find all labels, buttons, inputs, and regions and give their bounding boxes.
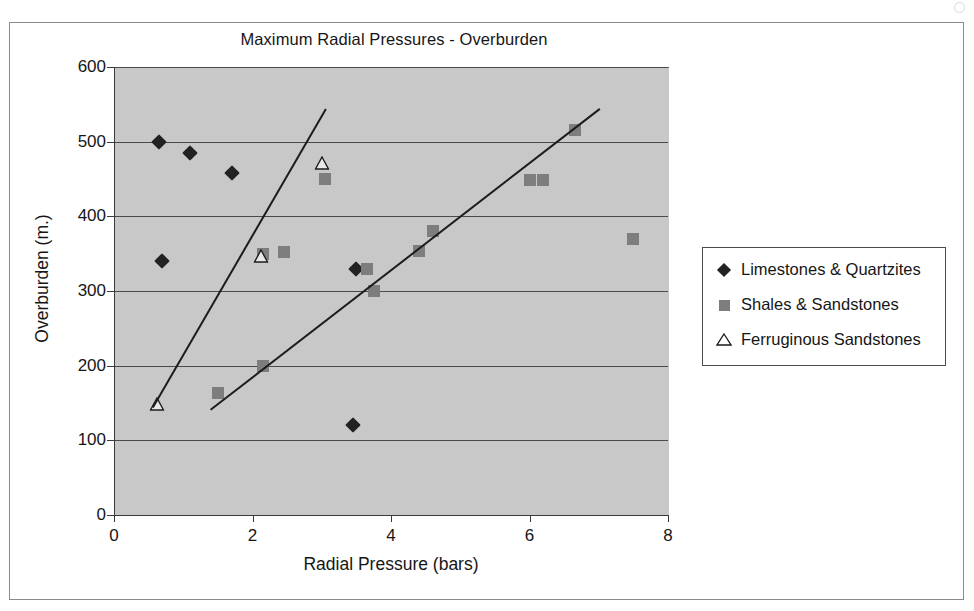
scatter-chart: Maximum Radial Pressures - Overburden 02… <box>10 23 700 601</box>
x-tick-0 <box>114 515 115 522</box>
x-tick-label-6: 6 <box>525 526 534 546</box>
gridline-y-100 <box>114 440 668 441</box>
x-tick-6 <box>530 515 531 522</box>
y-tick-label-0: 0 <box>60 505 106 525</box>
x-tick-4 <box>391 515 392 522</box>
y-tick-label-300: 300 <box>60 281 106 301</box>
gridline-y-500 <box>114 142 668 143</box>
y-tick-label-600: 600 <box>60 57 106 77</box>
scan-speck <box>954 2 965 13</box>
diamond-marker-icon <box>716 262 732 278</box>
legend-label-0: Limestones & Quartzites <box>741 260 921 279</box>
y-tick-400 <box>107 216 115 217</box>
y-tick-label-100: 100 <box>60 430 106 450</box>
data-point-triangle-2-2 <box>314 156 329 170</box>
data-point-square-1-10 <box>537 174 549 186</box>
figure-frame: Maximum Radial Pressures - Overburden 02… <box>9 22 964 600</box>
legend-label-2: Ferruginous Sandstones <box>741 330 921 349</box>
data-point-square-1-0 <box>212 387 224 399</box>
y-axis-title: Overburden (m.) <box>32 179 53 379</box>
gridline-y-300 <box>114 291 668 292</box>
y-tick-label-400: 400 <box>60 206 106 226</box>
x-tick-label-8: 8 <box>663 526 672 546</box>
gridline-y-200 <box>114 366 668 367</box>
data-point-triangle-2-1 <box>253 249 268 263</box>
square-marker-icon <box>716 297 732 313</box>
x-axis-title: Radial Pressure (bars) <box>114 554 668 575</box>
triangle-marker-icon <box>716 332 732 348</box>
x-tick-8 <box>668 515 669 522</box>
y-tick-100 <box>107 440 115 441</box>
legend-label-1: Shales & Sandstones <box>741 295 899 314</box>
data-point-square-1-12 <box>627 233 639 245</box>
x-tick-label-0: 0 <box>109 526 118 546</box>
y-tick-label-200: 200 <box>60 356 106 376</box>
y-tick-0 <box>107 515 115 516</box>
y-tick-500 <box>107 142 115 143</box>
data-point-square-1-5 <box>361 263 373 275</box>
gridline-y-600 <box>114 67 668 68</box>
x-tick-2 <box>253 515 254 522</box>
data-point-square-1-4 <box>319 173 331 185</box>
y-tick-600 <box>107 67 115 68</box>
legend-item-1[interactable]: Shales & Sandstones <box>716 295 899 314</box>
chart-title: Maximum Radial Pressures - Overburden <box>114 30 674 49</box>
chart-legend: Limestones & QuartzitesShales & Sandston… <box>702 247 946 366</box>
gridline-y-400 <box>114 216 668 217</box>
y-tick-label-500: 500 <box>60 132 106 152</box>
data-point-square-1-3 <box>278 246 290 258</box>
y-tick-300 <box>107 291 115 292</box>
y-tick-200 <box>107 366 115 367</box>
legend-item-2[interactable]: Ferruginous Sandstones <box>716 330 921 349</box>
data-point-square-1-9 <box>524 174 536 186</box>
x-tick-label-2: 2 <box>248 526 257 546</box>
legend-item-0[interactable]: Limestones & Quartzites <box>716 260 921 279</box>
x-tick-label-4: 4 <box>386 526 395 546</box>
